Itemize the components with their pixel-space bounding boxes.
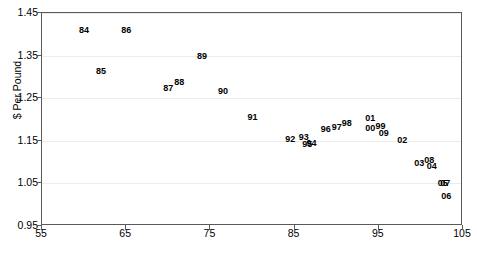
x-axis-tick-mark (209, 225, 210, 230)
data-point-label-90: 90 (218, 86, 228, 95)
data-point-label-85: 85 (96, 66, 106, 75)
data-point-label-01: 01 (365, 114, 375, 123)
data-point-label-02: 02 (397, 135, 407, 144)
data-point-label-00: 00 (365, 124, 375, 133)
gridline (42, 13, 461, 14)
x-axis-tick-mark (462, 225, 463, 230)
data-point-label-84: 84 (79, 26, 89, 35)
data-point-label-03: 03 (414, 158, 424, 167)
data-point-label-98: 98 (342, 118, 352, 127)
x-axis-tick-mark (378, 225, 379, 230)
gridline (42, 98, 461, 99)
data-point-label-95: 95 (302, 139, 312, 148)
data-point-label-92: 92 (285, 134, 295, 143)
data-point-label-06: 06 (441, 192, 451, 201)
data-point-label-91: 91 (247, 113, 257, 122)
data-point-label-89: 89 (197, 51, 207, 60)
y-axis-title: $ Per Pound (11, 35, 23, 145)
data-point-label-08: 08 (424, 155, 434, 164)
plot-area: 8485868788899091929394959697989900010203… (41, 12, 462, 225)
x-axis-tick-mark (294, 225, 295, 230)
y-axis-tick-label: 1.45 (18, 7, 38, 17)
data-point-label-07: 07 (440, 179, 450, 188)
data-point-label-97: 97 (332, 123, 342, 132)
data-point-label-09: 09 (379, 129, 389, 138)
scatter-chart: 0.951.051.151.251.351.45 $ Per Pound 848… (0, 0, 477, 254)
y-axis-tick-label: 1.05 (18, 177, 38, 187)
data-point-label-96: 96 (321, 124, 331, 133)
gridline (42, 56, 461, 57)
x-axis-tick-mark (41, 225, 42, 230)
data-point-label-88: 88 (174, 78, 184, 87)
data-point-label-87: 87 (163, 84, 173, 93)
data-point-label-86: 86 (121, 26, 131, 35)
x-axis-tick-mark (125, 225, 126, 230)
gridline (42, 183, 461, 184)
